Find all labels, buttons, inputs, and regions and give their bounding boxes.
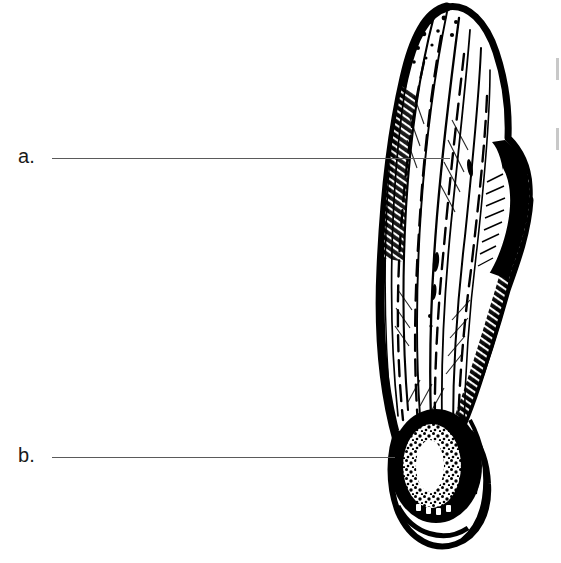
figure-page: a. b.	[0, 0, 561, 563]
label-a-text: a.	[18, 146, 35, 166]
leader-line-b	[52, 457, 395, 458]
page-edge-artifact-upper	[556, 58, 559, 80]
label-b-text: b.	[18, 445, 35, 465]
leader-line-a	[52, 158, 450, 159]
samara-wing	[380, 6, 538, 474]
samara-seed-body	[390, 409, 488, 546]
page-edge-artifact-lower	[556, 128, 559, 150]
samara-illustration	[0, 0, 561, 563]
